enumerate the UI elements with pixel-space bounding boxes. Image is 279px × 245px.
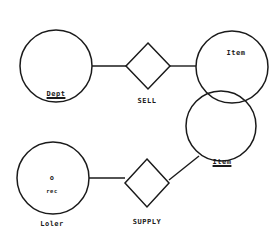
entity-label-item-bottom: Item bbox=[213, 159, 232, 166]
entity-label-color: Loler bbox=[40, 221, 64, 228]
connector-supply-item_bottom bbox=[169, 156, 199, 180]
relationship-label-supply: SUPPLY bbox=[133, 219, 161, 226]
relationship-diamond-supply bbox=[125, 159, 169, 207]
relationship-shapes bbox=[125, 43, 170, 207]
attribute-label-rec: rec bbox=[46, 189, 57, 195]
entity-label-item-top: Item bbox=[227, 50, 246, 57]
relationship-label-sell: SELL bbox=[138, 98, 157, 105]
attribute-symbol: o bbox=[50, 175, 55, 182]
entity-label-dept: Dept bbox=[47, 91, 66, 98]
relationship-diamond-sell bbox=[126, 43, 170, 89]
er-diagram-canvas bbox=[0, 0, 279, 245]
